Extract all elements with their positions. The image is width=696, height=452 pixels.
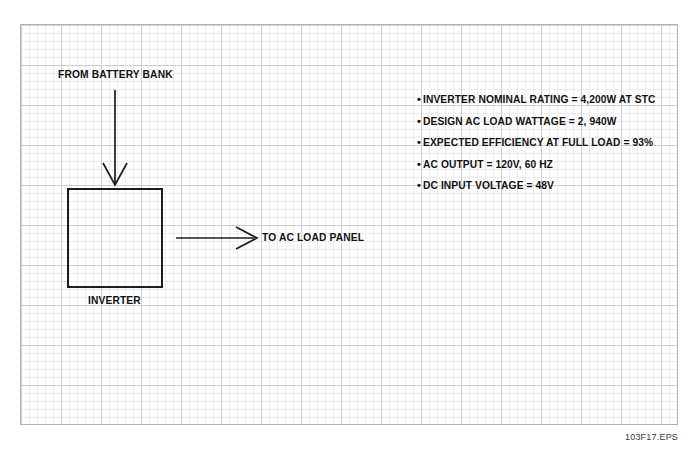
spec-text: AC OUTPUT = 120V, 60 HZ	[423, 158, 553, 171]
diagram-canvas: FROM BATTERY BANK INVERTER TO AC LOAD PA…	[0, 0, 696, 452]
spec-text: DESIGN AC LOAD WATTAGE = 2, 940W	[423, 115, 616, 128]
spec-item: • AC OUTPUT = 120V, 60 HZ	[417, 158, 679, 180]
spec-item: • DC INPUT VOLTAGE = 48V	[417, 179, 679, 201]
spec-text: INVERTER NOMINAL RATING = 4,200W AT STC	[423, 93, 656, 106]
spec-item: • INVERTER NOMINAL RATING = 4,200W AT ST…	[417, 93, 679, 115]
specification-list: • INVERTER NOMINAL RATING = 4,200W AT ST…	[417, 93, 679, 201]
figure-id-caption: 103F17.EPS	[625, 432, 678, 442]
label-inverter: INVERTER	[88, 294, 141, 306]
spec-text: EXPECTED EFFICIENCY AT FULL LOAD = 93%	[423, 136, 653, 149]
label-from-battery-bank: FROM BATTERY BANK	[58, 68, 173, 80]
spec-text: DC INPUT VOLTAGE = 48V	[423, 179, 554, 192]
spec-item: • EXPECTED EFFICIENCY AT FULL LOAD = 93%	[417, 136, 679, 158]
inverter-block	[67, 188, 163, 288]
label-to-ac-load-panel: TO AC LOAD PANEL	[262, 231, 364, 243]
spec-item: • DESIGN AC LOAD WATTAGE = 2, 940W	[417, 115, 679, 137]
